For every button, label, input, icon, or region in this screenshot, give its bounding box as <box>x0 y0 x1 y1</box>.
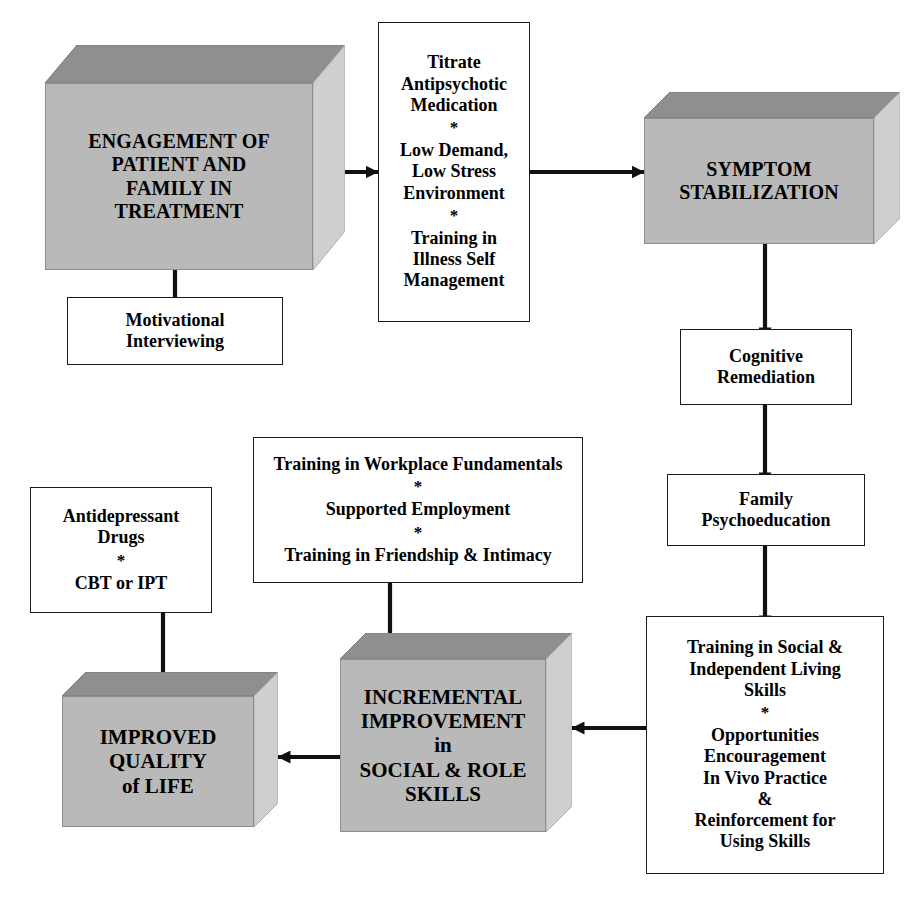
titrate-line-4: Low Demand, <box>400 140 508 161</box>
node-symptom-stabilization[interactable]: SYMPTOM STABILIZATION <box>644 92 900 244</box>
quality-line-2: QUALITY <box>109 749 207 773</box>
antidepressant-line-3: CBT or IPT <box>75 573 167 594</box>
titrate-line-3: Medication <box>411 95 498 116</box>
titrate-line-9: Management <box>404 270 505 291</box>
family-line-2: Psychoeducation <box>701 510 830 531</box>
node-training-in-social-and-independent-living-skills[interactable]: Training in Social & Independent Living … <box>646 616 884 874</box>
incremental-box-front: INCREMENTAL IMPROVEMENT in SOCIAL & ROLE… <box>340 659 546 832</box>
titrate-line-1: Titrate <box>427 52 481 73</box>
titrate-line-6: Environment <box>403 183 505 204</box>
antidepressant-line-1: Antidepressant <box>63 506 180 527</box>
incremental-line-3: in <box>434 733 452 757</box>
socialskills-line-2: Independent Living <box>689 659 841 680</box>
quality-line-1: IMPROVED <box>100 725 217 749</box>
socialskills-line-5: Encouragement <box>704 746 826 767</box>
titrate-line-2: Antipsychotic <box>401 74 507 95</box>
incremental-line-5: SKILLS <box>405 782 481 806</box>
engagement-line-3: FAMILY IN <box>126 177 232 200</box>
socialskills-line-6: In Vivo Practice <box>703 768 827 789</box>
cognitive-line-2: Remediation <box>717 367 815 388</box>
node-improved-quality-of-life[interactable]: IMPROVED QUALITY of LIFE <box>62 672 278 827</box>
workplace-separator-2: * <box>414 521 423 545</box>
titrate-line-8: Illness Self <box>413 249 496 270</box>
workplace-line-1: Training in Workplace Fundamentals <box>274 454 563 475</box>
quality-box-front: IMPROVED QUALITY of LIFE <box>62 696 254 827</box>
node-motivational-interviewing[interactable]: Motivational Interviewing <box>67 297 283 365</box>
titrate-line-5: Low Stress <box>412 161 496 182</box>
diagram-canvas: ENGAGEMENT OF PATIENT AND FAMILY IN TREA… <box>0 0 923 907</box>
cognitive-line-1: Cognitive <box>729 346 803 367</box>
node-incremental-improvement-in-social-and-role-skills[interactable]: INCREMENTAL IMPROVEMENT in SOCIAL & ROLE… <box>340 633 572 832</box>
socialskills-line-1: Training in Social & <box>687 637 843 658</box>
symptom-line-2: STABILIZATION <box>679 181 839 204</box>
engagement-line-2: PATIENT AND <box>111 153 246 176</box>
titrate-separator-1: * <box>450 116 459 140</box>
node-cognitive-remediation[interactable]: Cognitive Remediation <box>680 329 852 405</box>
antidepressant-line-2: Drugs <box>97 527 144 548</box>
quality-line-3: of LIFE <box>122 774 194 798</box>
socialskills-line-3: Skills <box>744 680 786 701</box>
workplace-separator-1: * <box>414 475 423 499</box>
motivational-line-1: Motivational <box>126 310 225 331</box>
workplace-line-2: Supported Employment <box>326 499 511 520</box>
workplace-line-3: Training in Friendship & Intimacy <box>284 545 552 566</box>
family-line-1: Family <box>739 489 793 510</box>
socialskills-line-8: Reinforcement for <box>694 810 835 831</box>
antidepressant-separator-1: * <box>117 549 126 573</box>
socialskills-line-4: Opportunities <box>711 725 819 746</box>
node-family-psychoeducation[interactable]: Family Psychoeducation <box>667 474 865 546</box>
titrate-line-7: Training in <box>411 228 497 249</box>
incremental-line-2: IMPROVEMENT <box>361 709 526 733</box>
engagement-line-4: TREATMENT <box>114 200 243 223</box>
node-antidepressant-drugs[interactable]: Antidepressant Drugs * CBT or IPT <box>30 487 212 613</box>
socialskills-separator-1: * <box>761 701 770 725</box>
engagement-box-front: ENGAGEMENT OF PATIENT AND FAMILY IN TREA… <box>45 83 313 270</box>
titrate-separator-2: * <box>450 204 459 228</box>
node-titrate-medication-and-environment[interactable]: Titrate Antipsychotic Medication * Low D… <box>378 22 530 322</box>
socialskills-line-7: & <box>758 789 773 810</box>
symptom-box-front: SYMPTOM STABILIZATION <box>644 118 874 244</box>
motivational-line-2: Interviewing <box>126 331 224 352</box>
incremental-line-1: INCREMENTAL <box>364 685 522 709</box>
symptom-line-1: SYMPTOM <box>706 158 811 181</box>
incremental-line-4: SOCIAL & ROLE <box>360 758 527 782</box>
node-engagement-of-patient-and-family-in-treatment[interactable]: ENGAGEMENT OF PATIENT AND FAMILY IN TREA… <box>45 45 345 270</box>
engagement-line-1: ENGAGEMENT OF <box>88 130 270 153</box>
node-training-in-workplace-fundamentals[interactable]: Training in Workplace Fundamentals * Sup… <box>253 437 583 583</box>
socialskills-line-9: Using Skills <box>720 831 811 852</box>
